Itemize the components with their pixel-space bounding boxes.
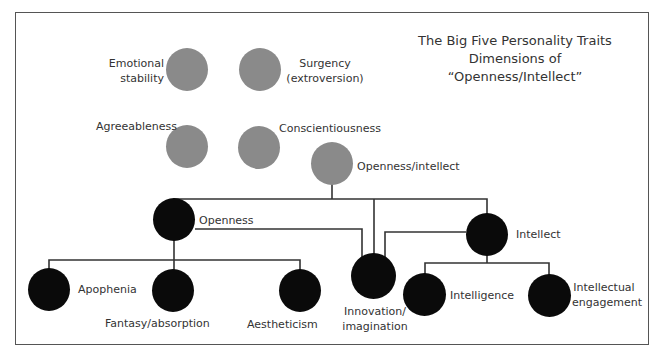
diagram-title: The Big Five Personality Traits Dimensio… bbox=[400, 32, 630, 86]
node-emotional-stability bbox=[166, 48, 208, 91]
label-emotional-stability: Emotional stability bbox=[106, 56, 164, 86]
label-surgency: Surgency (extroversion) bbox=[285, 56, 365, 86]
node-intellectual-engagement bbox=[528, 274, 571, 317]
node-fantasy-absorption bbox=[152, 269, 194, 312]
label-apophenia: Apophenia bbox=[78, 282, 137, 297]
node-openness-intellect bbox=[311, 142, 353, 185]
title-line-1: The Big Five Personality Traits bbox=[400, 32, 630, 50]
title-line-2: Dimensions of “Openness/Intellect” bbox=[400, 50, 630, 86]
label-intelligence: Intelligence bbox=[450, 288, 514, 303]
label-openness: Openness bbox=[199, 213, 254, 228]
label-conscientiousness: Conscientiousness bbox=[279, 121, 381, 136]
node-aestheticism bbox=[279, 269, 321, 312]
node-conscientiousness bbox=[238, 126, 280, 169]
node-apophenia bbox=[28, 268, 70, 311]
node-surgency bbox=[239, 48, 281, 91]
label-intellect: Intellect bbox=[516, 227, 561, 242]
label-openness-intellect: Openness/intellect bbox=[357, 159, 460, 174]
label-intellectual-engagement: Intellectual engagement bbox=[572, 280, 636, 310]
node-openness bbox=[153, 198, 195, 241]
label-aestheticism: Aestheticism bbox=[247, 317, 318, 332]
label-fantasy-absorption: Fantasy/absorption bbox=[105, 316, 210, 331]
node-intelligence bbox=[403, 273, 446, 316]
node-innovation-imagination bbox=[351, 253, 396, 299]
node-intellect bbox=[466, 213, 508, 256]
label-innovation-imagination: Innovation/ imagination bbox=[340, 304, 410, 334]
label-agreeableness: Agreeableness bbox=[96, 119, 177, 134]
